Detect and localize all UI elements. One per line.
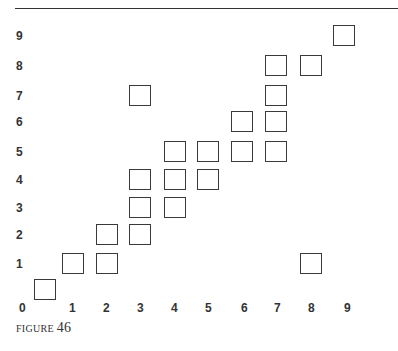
x-tick-label: 1 bbox=[69, 302, 76, 314]
y-tick-label: 3 bbox=[16, 202, 23, 214]
data-point-square bbox=[333, 25, 355, 46]
x-tick-label: 3 bbox=[137, 302, 144, 314]
data-point-square bbox=[265, 55, 287, 76]
data-point-square bbox=[197, 141, 219, 162]
y-tick-label: 1 bbox=[16, 258, 23, 270]
data-point-square bbox=[129, 169, 151, 190]
top-rule bbox=[15, 8, 398, 9]
data-point-square bbox=[96, 253, 118, 274]
data-point-square bbox=[231, 111, 253, 132]
caption-number: 46 bbox=[57, 320, 72, 335]
x-tick-label: 5 bbox=[205, 302, 212, 314]
data-point-square bbox=[129, 85, 151, 106]
x-tick-label: 0 bbox=[19, 302, 26, 314]
y-tick-label: 8 bbox=[16, 60, 23, 72]
figure-caption: FIGURE 46 bbox=[16, 320, 71, 336]
data-point-square bbox=[164, 169, 186, 190]
x-tick-label: 6 bbox=[241, 302, 248, 314]
data-point-square bbox=[96, 224, 118, 245]
y-tick-label: 4 bbox=[16, 174, 23, 186]
x-tick-label: 8 bbox=[308, 302, 315, 314]
data-point-square bbox=[231, 141, 253, 162]
data-point-square bbox=[34, 279, 56, 300]
x-tick-label: 4 bbox=[171, 302, 178, 314]
y-tick-label: 7 bbox=[16, 90, 23, 102]
data-point-square bbox=[164, 141, 186, 162]
y-tick-label: 2 bbox=[16, 229, 23, 241]
data-point-square bbox=[129, 197, 151, 218]
x-tick-label: 2 bbox=[103, 302, 110, 314]
data-point-square bbox=[265, 111, 287, 132]
data-point-square bbox=[62, 253, 84, 274]
caption-label: FIGURE bbox=[16, 323, 54, 334]
y-tick-label: 5 bbox=[16, 146, 23, 158]
y-tick-label: 9 bbox=[16, 30, 23, 42]
data-point-square bbox=[197, 169, 219, 190]
data-point-square bbox=[129, 224, 151, 245]
data-point-square bbox=[265, 85, 287, 106]
data-point-square bbox=[265, 141, 287, 162]
y-tick-label: 6 bbox=[16, 116, 23, 128]
x-tick-label: 7 bbox=[274, 302, 281, 314]
x-tick-label: 9 bbox=[344, 302, 351, 314]
data-point-square bbox=[300, 55, 322, 76]
data-point-square bbox=[164, 197, 186, 218]
data-point-square bbox=[300, 253, 322, 274]
